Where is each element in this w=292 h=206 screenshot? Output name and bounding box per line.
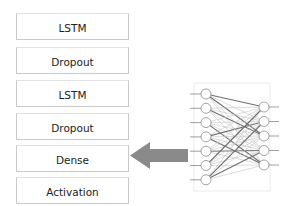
network-edge <box>206 107 264 108</box>
network-edge <box>206 136 264 180</box>
input-node <box>201 146 211 156</box>
output-node <box>259 102 269 112</box>
network-edge <box>206 165 264 180</box>
input-node <box>201 89 211 99</box>
input-node <box>201 103 211 113</box>
input-node <box>201 175 211 185</box>
input-node <box>201 118 211 128</box>
output-node <box>259 117 269 127</box>
left-arrow-icon <box>130 142 188 169</box>
output-node <box>259 160 269 170</box>
input-node <box>201 161 211 171</box>
network-diagram <box>0 0 292 206</box>
input-node <box>201 132 211 142</box>
output-node <box>259 131 269 141</box>
network-edges <box>206 94 264 180</box>
network-edge <box>206 107 264 180</box>
output-node <box>259 146 269 156</box>
